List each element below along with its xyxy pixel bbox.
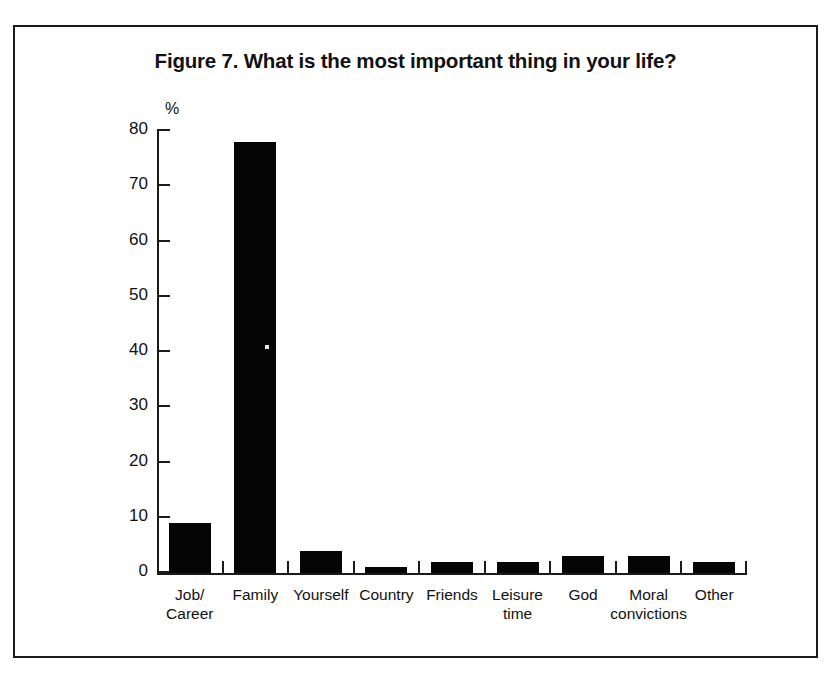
y-axis-tick: 70 xyxy=(157,184,170,186)
bar xyxy=(693,562,735,573)
y-axis-tick-label: 20 xyxy=(129,451,148,471)
y-axis-tick: 20 xyxy=(157,461,170,463)
scan-artifact-speck xyxy=(265,345,269,349)
y-axis-tick-label: 30 xyxy=(129,395,148,415)
x-axis-label: Other xyxy=(673,585,755,604)
x-axis-line xyxy=(157,573,747,575)
y-axis-tick: 50 xyxy=(157,295,170,297)
y-axis-tick: 10 xyxy=(157,516,170,518)
y-axis-tick-label: 60 xyxy=(129,230,148,250)
y-axis-line xyxy=(157,130,159,575)
y-axis-tick: 30 xyxy=(157,405,170,407)
y-axis-tick: 40 xyxy=(157,350,170,352)
y-axis-tick: 80 xyxy=(157,129,170,131)
x-axis-tick xyxy=(615,561,617,573)
bar xyxy=(365,567,407,573)
bar xyxy=(234,142,276,573)
x-axis-tick xyxy=(680,561,682,573)
x-axis-tick xyxy=(222,561,224,573)
x-axis-tick xyxy=(418,561,420,573)
plot-area: % 01020304050607080 Job/ CareerFamilyYou… xyxy=(157,130,747,575)
x-axis-tick xyxy=(549,561,551,573)
bar xyxy=(628,556,670,573)
x-axis-tick xyxy=(287,561,289,573)
chart-title: Figure 7. What is the most important thi… xyxy=(15,49,816,73)
bar xyxy=(169,523,211,573)
y-axis-tick-label: 40 xyxy=(129,340,148,360)
x-axis-tick xyxy=(353,561,355,573)
bar xyxy=(497,562,539,573)
x-axis-tick xyxy=(484,561,486,573)
bar xyxy=(300,551,342,573)
bar xyxy=(562,556,604,573)
bar xyxy=(431,562,473,573)
y-axis-tick-label: 10 xyxy=(129,506,148,526)
y-axis-tick: 60 xyxy=(157,240,170,242)
y-axis-tick-label: 70 xyxy=(129,174,148,194)
y-axis-tick-label: 50 xyxy=(129,285,148,305)
figure-frame: Figure 7. What is the most important thi… xyxy=(13,25,818,658)
y-axis-tick-label: 80 xyxy=(129,119,148,139)
y-axis-unit-label: % xyxy=(165,100,179,118)
y-axis-tick-label: 0 xyxy=(139,561,148,581)
x-axis-tick xyxy=(745,561,747,573)
